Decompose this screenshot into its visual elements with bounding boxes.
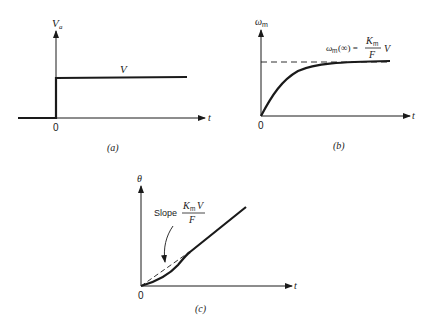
panel-b-caption: (b) (333, 140, 345, 152)
figure: V a V 0 t (a) ω m ω m (∞) = K m F V 0 t … (0, 0, 426, 322)
panel-c-x-label: t (294, 280, 297, 291)
panel-a-y-label-sub: a (59, 23, 63, 31)
panel-b-x-label: t (412, 110, 415, 121)
panel-c-y-label: θ (137, 173, 142, 184)
panel-b-asymptote-lhs-sub: m (332, 47, 337, 54)
panel-a-step-input: V a V 0 t (a) (18, 17, 211, 154)
panel-a-level-label: V (120, 63, 128, 75)
panel-b-asymptote-den: F (368, 49, 376, 60)
panel-c-slope-word: Slope (154, 208, 177, 218)
panel-b-y-label-sub: m (262, 21, 268, 28)
panel-b-asymptote-arg: (∞) = (338, 43, 358, 53)
panel-c-origin: 0 (138, 290, 144, 301)
panel-b-response-curve (261, 61, 390, 116)
panel-b-y-label: ω (255, 16, 262, 27)
panel-c-slope-num-tail: V (197, 200, 205, 211)
panel-a-x-label: t (208, 112, 211, 123)
panel-a-caption: (a) (107, 142, 119, 154)
panel-a-origin: 0 (53, 122, 59, 133)
panel-c-angular-position: θ Slope K m V F 0 t (c) (137, 173, 297, 315)
panel-a-step-curve (18, 77, 187, 118)
panel-b-asymptote-tail: V (384, 43, 392, 54)
panel-c-slope-den: F (188, 214, 196, 225)
panel-c-caption: (c) (195, 303, 207, 315)
panel-c-slope-pointer-arrow (164, 226, 173, 262)
panel-b-asymptote-num-sub: m (373, 40, 378, 47)
panel-c-slope-num-sub: m (190, 205, 195, 212)
panel-b-origin: 0 (258, 120, 264, 131)
panel-b-angular-velocity: ω m ω m (∞) = K m F V 0 t (b) (255, 16, 415, 152)
